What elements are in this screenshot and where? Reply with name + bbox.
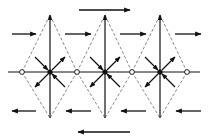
filled-node (102, 69, 107, 74)
diag-arrow-in-upper-left (145, 57, 158, 70)
diag-arrow-in-lower-right (52, 74, 65, 87)
dashed-edge (160, 15, 187, 72)
diag-arrow-in-upper-left (90, 57, 103, 70)
open-node (130, 70, 135, 75)
open-node (185, 70, 190, 75)
dashed-edge (105, 15, 132, 72)
open-node (75, 70, 80, 75)
dashed-edge (77, 15, 105, 72)
dashed-edge (50, 15, 77, 72)
diag-arrow-in-lower-right (162, 74, 175, 87)
diag-arrow-out-upper-right (162, 57, 175, 70)
diag-arrow-in-lower-right (107, 74, 120, 87)
dashed-edge (132, 15, 160, 72)
filled-node (157, 69, 162, 74)
vertical-field-lines (50, 15, 160, 118)
diag-arrow-out-upper-right (107, 57, 120, 70)
open-node (20, 70, 25, 75)
diag-arrow-out-upper-right (52, 57, 65, 70)
dashed-edge (22, 15, 50, 72)
filled-node (47, 69, 52, 74)
diag-arrow-out-lower-left (35, 74, 48, 87)
diamond-lattice-diagram (0, 0, 212, 138)
diag-arrow-out-lower-left (90, 74, 103, 87)
diag-arrow-in-upper-left (35, 57, 48, 70)
diag-arrow-out-lower-left (145, 74, 158, 87)
